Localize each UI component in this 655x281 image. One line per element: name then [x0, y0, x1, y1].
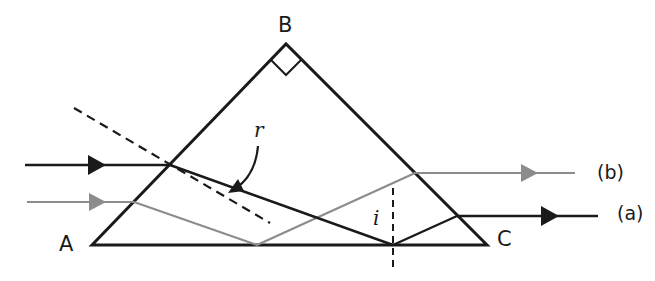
- angle-label-r: r: [254, 120, 264, 140]
- prism-triangle: [92, 44, 487, 245]
- ray-label-b: (b): [597, 163, 624, 182]
- angle-label-i: i: [373, 208, 379, 228]
- ray-b-path: [27, 173, 575, 245]
- vertex-label-b: B: [278, 15, 292, 36]
- prism-diagram: [0, 0, 655, 281]
- ray-a-input-arrow-icon: [88, 155, 106, 175]
- ray-a-path: [25, 165, 598, 245]
- vertex-label-a: A: [59, 234, 73, 255]
- ray-b-input-arrow-icon: [89, 193, 106, 211]
- ray-b-output-arrow-icon: [521, 164, 538, 182]
- vertex-label-c: C: [497, 229, 512, 250]
- ray-a-output-arrow-icon: [541, 206, 559, 226]
- ray-label-a: (a): [617, 204, 643, 223]
- right-angle-marker: [271, 60, 301, 75]
